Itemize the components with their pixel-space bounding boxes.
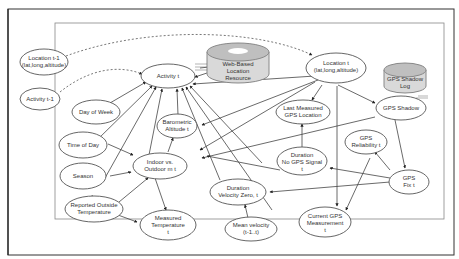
svg-text:Day of Week: Day of Week	[79, 109, 114, 115]
edge-location-prev-to-location	[66, 34, 312, 56]
node-duration-velocity-zero: Duration Velocity Zero, t	[210, 179, 266, 205]
svg-text:Activity t-1: Activity t-1	[26, 96, 54, 102]
svg-text:Barometric: Barometric	[162, 119, 191, 125]
svg-text:Last Measured: Last Measured	[283, 105, 323, 111]
node-season: Season	[60, 163, 106, 189]
svg-text:Location t-1: Location t-1	[28, 55, 60, 61]
svg-text:Reported Outside: Reported Outside	[70, 202, 118, 208]
database-gps-shadow-log: GPS Shadow Log	[384, 63, 428, 98]
svg-text:Temperature: Temperature	[151, 222, 185, 228]
node-current-gps: Current GPS Measurement t	[299, 207, 351, 237]
svg-text:Reliability t: Reliability t	[351, 142, 380, 148]
svg-text:(lat,long,altitude): (lat,long,altitude)	[22, 62, 66, 68]
svg-text:Location: Location	[227, 68, 250, 74]
node-gps-fix: GPS Fix t	[389, 170, 429, 194]
svg-text:GPS Shadow: GPS Shadow	[383, 105, 420, 111]
node-location: Location t (lat,long,altitude)	[306, 53, 366, 83]
svg-text:Indoor vs.: Indoor vs.	[147, 159, 174, 165]
svg-text:Measured: Measured	[155, 215, 182, 221]
svg-text:Duration: Duration	[227, 185, 250, 191]
svg-text:Mean velocity: Mean velocity	[233, 222, 270, 228]
svg-text:Fix t: Fix t	[403, 182, 415, 188]
svg-text:Outdoor m t: Outdoor m t	[144, 166, 176, 172]
svg-text:GPS Location: GPS Location	[284, 112, 321, 118]
node-gps-reliability: GPS Reliability t	[345, 130, 387, 154]
svg-text:(lat,long,altitude): (lat,long,altitude)	[314, 67, 358, 73]
node-duration-no-gps: Duration No GPS Signal t	[277, 147, 327, 175]
svg-text:Duration: Duration	[291, 152, 314, 158]
node-time-of-day: Time of Day	[59, 132, 107, 158]
edge-activity-prev-to-activity	[60, 69, 142, 92]
svg-text:(t-1..t): (t-1..t)	[243, 229, 259, 235]
node-indoor-outdoor: Indoor vs. Outdoor m t	[133, 153, 187, 179]
node-activity-prev: Activity t-1	[20, 88, 60, 110]
svg-text:GPS: GPS	[403, 175, 416, 181]
node-gps-shadow: GPS Shadow	[376, 96, 426, 120]
svg-text:Resource: Resource	[225, 75, 251, 81]
svg-text:Activity t: Activity t	[157, 73, 180, 79]
svg-text:Log: Log	[400, 83, 410, 89]
svg-text:GPS: GPS	[360, 135, 373, 141]
node-location-prev: Location t-1 (lat,long,altitude)	[20, 49, 68, 75]
bayesian-network-diagram: Web-Based Location Resource GPS Shadow L…	[0, 0, 459, 259]
node-barometric-altitude: Barometric Altitude t	[157, 114, 197, 138]
node-mean-velocity: Mean velocity (t-1..t)	[225, 217, 277, 241]
svg-text:Season: Season	[73, 173, 93, 179]
svg-text:No GPS Signal: No GPS Signal	[282, 159, 322, 165]
svg-text:Location t: Location t	[323, 60, 349, 66]
database-web-location-resource: Web-Based Location Resource	[195, 43, 269, 83]
svg-text:Current GPS: Current GPS	[308, 213, 342, 219]
node-reported-outside-temp: Reported Outside Temperature	[65, 196, 123, 222]
svg-text:GPS Shadow: GPS Shadow	[387, 76, 424, 82]
svg-text:Measurement: Measurement	[307, 220, 344, 226]
node-activity: Activity t	[141, 64, 195, 88]
node-day-of-week: Day of Week	[72, 100, 120, 124]
node-measured-temperature: Measured Temperature t	[140, 210, 196, 240]
svg-text:Time of Day: Time of Day	[67, 142, 99, 148]
svg-text:Altitude t: Altitude t	[165, 126, 189, 132]
svg-text:Temperature: Temperature	[77, 209, 111, 215]
svg-text:Web-Based: Web-Based	[222, 61, 253, 67]
svg-text:Velocity Zero, t: Velocity Zero, t	[218, 192, 258, 198]
node-last-measured-gps: Last Measured GPS Location	[276, 100, 330, 124]
